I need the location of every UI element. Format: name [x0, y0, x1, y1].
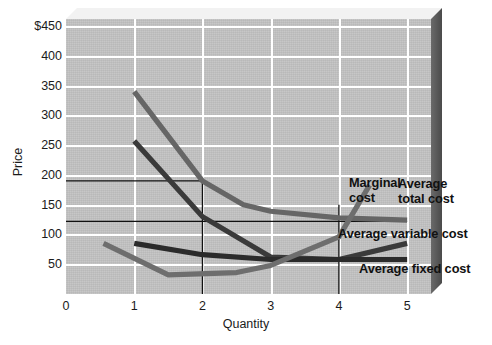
- x-axis-tick-label: 5: [387, 300, 427, 313]
- y-axis-tick-label: 350: [8, 80, 62, 93]
- marginal-cost-label: Marginal cost: [349, 175, 401, 205]
- x-axis-tick-label: 1: [114, 300, 154, 313]
- cost-curves-chart: $45040035030025020015010050 012345 Price…: [0, 0, 492, 345]
- x-axis-tick-label: 2: [182, 300, 222, 313]
- x-axis-title: Quantity: [0, 317, 492, 331]
- x-axis-tick-label: 3: [251, 300, 291, 313]
- average-variable-cost-label: Average variable cost: [338, 226, 468, 241]
- average-total-cost-label: Average total cost: [398, 176, 454, 206]
- y-axis-tick-label: 100: [8, 228, 62, 241]
- y-axis-tick-label: 150: [8, 199, 62, 212]
- x-axis-tick-label: 0: [46, 300, 86, 313]
- y-axis-tick-label: 300: [8, 109, 62, 122]
- y-axis-tick-label: $450: [8, 20, 62, 33]
- curve-layer: [0, 0, 492, 345]
- y-axis-title: Price: [11, 132, 25, 192]
- y-axis-tick-label: 50: [8, 258, 62, 271]
- y-axis-tick-label: 400: [8, 50, 62, 63]
- x-axis-tick-label: 4: [319, 300, 359, 313]
- average-fixed-cost-label: Average fixed cost: [359, 261, 471, 276]
